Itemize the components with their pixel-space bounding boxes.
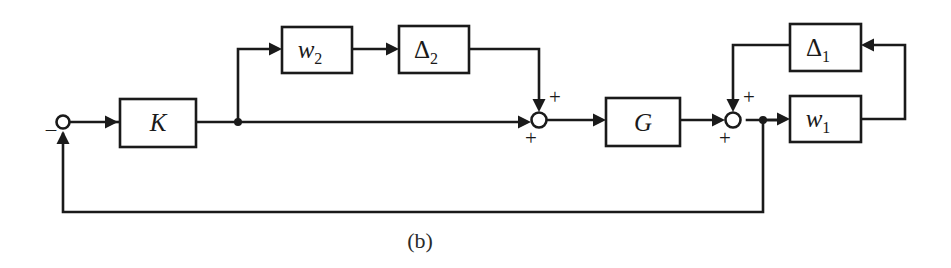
- delta2-input-arrowhead: [386, 43, 399, 56]
- w2-input-arrowhead: [269, 43, 282, 56]
- block-label-K: K: [149, 109, 168, 136]
- controller-output-branch: [234, 118, 242, 126]
- plant-output-branch: [759, 116, 767, 124]
- block-label-subscript-w2: 2: [314, 50, 322, 67]
- delta2-to-sum1-wire: [469, 49, 539, 100]
- block-diagram-figure: Kw2Δ2GΔ1w1 –++++ (b): [0, 0, 951, 268]
- delta1-input-arrowhead: [861, 39, 874, 52]
- plant-input-arrowhead: [593, 114, 606, 127]
- sum2-left-input-arrowhead: [712, 114, 725, 127]
- block-Delta1: Δ1: [790, 24, 861, 71]
- block-diagram-canvas: Kw2Δ2GΔ1w1 –++++ (b): [0, 0, 951, 268]
- delta1-to-sum2-wire: [733, 45, 790, 100]
- output-uncertainty-summing-junction-sign-1: +: [719, 126, 731, 150]
- block-label-subscript-Delta2: 2: [430, 50, 438, 67]
- input-uncertainty-summing-junction-sign-1: +: [525, 126, 537, 150]
- block-Delta2: Δ2: [399, 26, 469, 73]
- error-junction-feedback-arrowhead: [57, 131, 70, 144]
- error-summing-junction: [57, 116, 70, 129]
- output-uncertainty-summing-junction-sign-0: +: [743, 85, 755, 109]
- block-G: G: [606, 98, 680, 146]
- block-w2: w2: [282, 27, 352, 73]
- w1-input-arrowhead: [777, 113, 790, 126]
- sum1-top-input-arrowhead: [533, 99, 546, 112]
- block-w1: w1: [790, 96, 861, 142]
- controller-branch-to-w2-wire: [238, 49, 272, 122]
- figure-caption: (b): [407, 228, 433, 253]
- block-K: K: [120, 99, 196, 147]
- controller-input-arrowhead: [105, 116, 118, 129]
- block-label-subscript-Delta1: 1: [822, 48, 830, 65]
- sum2-top-input-arrowhead: [727, 99, 740, 112]
- block-label-subscript-w1: 1: [822, 119, 830, 136]
- input-uncertainty-summing-junction-sign-0: +: [549, 85, 561, 109]
- error-summing-junction-sign-0: –: [45, 117, 57, 141]
- block-label-G: G: [634, 109, 652, 136]
- w1-to-delta1-feedback-wire: [861, 45, 905, 119]
